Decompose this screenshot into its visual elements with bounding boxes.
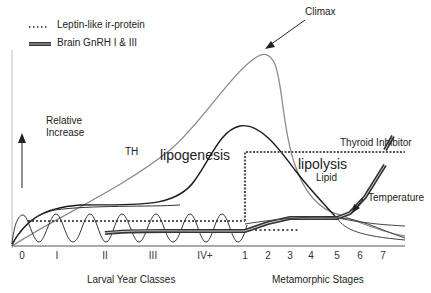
lipid-label: Lipid (316, 173, 337, 183)
relative-increase-label-2: Increase (46, 128, 84, 138)
tick-larval-1: I (56, 250, 59, 261)
tick-larval-4: IV+ (197, 250, 212, 261)
thyroid-inhibitor-label: Thyroid Inhibitor (340, 138, 412, 148)
tick-meta-5: 5 (334, 250, 340, 261)
tick-meta-7: 7 (380, 250, 386, 261)
tick-meta-1: 1 (242, 250, 248, 261)
plateau-curve (12, 205, 180, 246)
trailing-curve-2 (337, 218, 405, 240)
tick-meta-4: 4 (308, 250, 314, 261)
relative-increase-label-1: Relative (46, 116, 82, 126)
lipid-curve (12, 126, 335, 244)
climax-arrow (265, 20, 305, 49)
tick-meta-2: 2 (265, 250, 271, 261)
legend-gnrh-label: Brain GnRH I & III (57, 38, 137, 48)
lipogenesis-label: lipogenesis (160, 148, 230, 162)
legend-leptin-label: Leptin-like ir-protein (57, 20, 145, 30)
tick-meta-3: 3 (287, 250, 293, 261)
larval-axis-label: Larval Year Classes (87, 275, 175, 285)
lipolysis-label: lipolysis (298, 157, 347, 171)
tick-larval-2: II (102, 250, 108, 261)
th-label: TH (125, 147, 138, 157)
climax-label: Climax (305, 7, 336, 17)
relative-increase-arrow (18, 133, 26, 188)
metamorphic-axis-label: Metamorphic Stages (272, 275, 364, 285)
tick-meta-6: 6 (357, 250, 363, 261)
temperature-label: Temperature (368, 193, 424, 203)
tick-larval-0: 0 (19, 250, 25, 261)
tick-larval-3: III (149, 250, 157, 261)
temperature-arrow (352, 199, 363, 213)
